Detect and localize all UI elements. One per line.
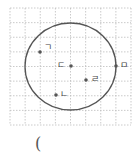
point-label-nieun: ㄴ xyxy=(60,90,68,99)
answer-blank[interactable]: ( xyxy=(35,134,41,153)
point-label-rieul: ㄹ xyxy=(91,75,99,84)
point-dot xyxy=(114,64,118,68)
point-dot xyxy=(69,64,73,68)
point-label-mieum: ㅁ xyxy=(120,61,128,70)
point-dot xyxy=(84,78,88,82)
points xyxy=(38,50,118,97)
point-label-giyeok: ㄱ xyxy=(44,43,52,52)
point-label-digeut: ㄷ xyxy=(57,61,65,70)
circle-grid-figure xyxy=(0,0,140,130)
point-dot xyxy=(54,93,58,97)
point-dot xyxy=(38,50,42,54)
